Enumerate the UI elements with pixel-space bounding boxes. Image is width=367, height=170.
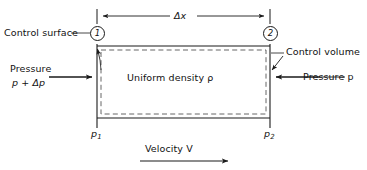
- station-1-marker: 1: [90, 26, 105, 41]
- pressure-right-label: Pressure p: [303, 71, 354, 83]
- pressure-left-label-line1: Pressure: [10, 63, 51, 75]
- delta-x-label: Δx: [174, 10, 186, 22]
- velocity-label: Velocity V: [145, 143, 193, 155]
- p2-label: p2: [264, 128, 275, 140]
- control-volume-leader: [271, 53, 284, 70]
- pressure-left-label-line2: p + Δp: [12, 77, 45, 89]
- control-surface-leader-arrow: [98, 49, 101, 60]
- control-surface-label: Control surface: [4, 27, 78, 39]
- p1-label: p1: [91, 128, 102, 140]
- control-volume-leader-arrow: [272, 56, 283, 70]
- p2-subscript: 2: [270, 133, 275, 141]
- station-2-marker: 2: [263, 26, 278, 41]
- control-volume-diagram: Control surface 1 2 Δx Control volume Pr…: [0, 0, 367, 170]
- p1-subscript: 1: [97, 133, 102, 141]
- uniform-density-label: Uniform density ρ: [127, 72, 213, 84]
- control-volume-label: Control volume: [286, 46, 360, 58]
- control-surface-outline: [97, 44, 270, 128]
